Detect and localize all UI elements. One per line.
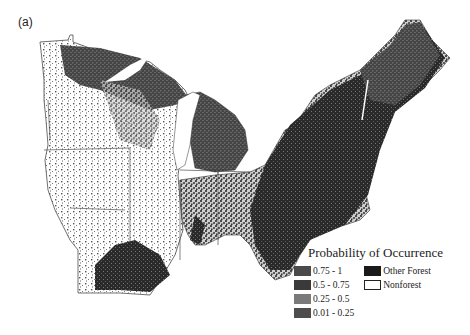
swatch-other-forest bbox=[364, 266, 381, 276]
midwest-region bbox=[40, 35, 250, 295]
swatch-prob-mid-low bbox=[294, 294, 311, 304]
probability-classes: 0.75 - 1 0.5 - 0.75 0.25 - 0.5 0.01 - 0.… bbox=[294, 265, 354, 319]
legend: Probability of Occurrence 0.75 - 1 0.5 -… bbox=[306, 245, 466, 319]
legend-item-nonforest: Nonforest bbox=[364, 279, 431, 291]
legend-item-prob-high: 0.75 - 1 bbox=[294, 265, 354, 277]
legend-item-prob-low: 0.01 - 0.25 bbox=[294, 307, 354, 319]
swatch-prob-high bbox=[294, 266, 311, 276]
swatch-prob-mid-high bbox=[294, 280, 311, 290]
legend-item-other-forest: Other Forest bbox=[364, 265, 431, 277]
cover-classes: Other Forest Nonforest bbox=[364, 265, 431, 319]
swatch-prob-low bbox=[294, 308, 311, 318]
swatch-nonforest bbox=[364, 280, 381, 290]
legend-title: Probability of Occurrence bbox=[308, 245, 466, 261]
legend-item-prob-mid-high: 0.5 - 0.75 bbox=[294, 279, 354, 291]
legend-item-prob-mid-low: 0.25 - 0.5 bbox=[294, 293, 354, 305]
